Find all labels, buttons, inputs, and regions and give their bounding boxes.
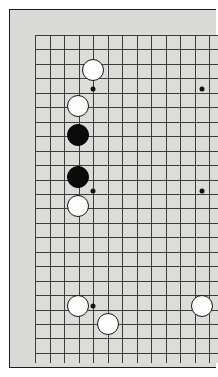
grid-line-vertical [122, 35, 123, 363]
star-point-upper-left [91, 87, 96, 92]
white-stone[interactable] [67, 195, 89, 217]
board-surface[interactable] [35, 35, 218, 363]
grid-line-horizontal [35, 252, 218, 253]
star-point-lower-left [91, 304, 96, 309]
grid-line-horizontal [35, 93, 218, 94]
grid-line-horizontal [35, 208, 218, 209]
grid-line-horizontal [35, 107, 218, 108]
grid-line-horizontal [35, 49, 218, 50]
white-stone[interactable] [191, 295, 213, 317]
grid-line-horizontal [35, 281, 218, 282]
grid-line-vertical [151, 35, 152, 363]
grid-line-vertical [50, 35, 51, 363]
white-stone[interactable] [67, 95, 89, 117]
black-stone[interactable] [67, 166, 89, 188]
star-point-upper-right [200, 87, 205, 92]
grid-line-horizontal [35, 165, 218, 166]
star-point-mid-left [91, 189, 96, 194]
grid-line-horizontal [35, 266, 218, 267]
grid-line-horizontal [35, 151, 218, 152]
grid-line-vertical [137, 35, 138, 363]
grid-line-horizontal [35, 64, 218, 65]
grid-line-horizontal [35, 338, 218, 339]
grid-line-horizontal [35, 35, 218, 36]
grid-line-horizontal [35, 310, 218, 311]
white-stone[interactable] [97, 313, 119, 335]
star-point-mid-right [200, 189, 205, 194]
white-stone[interactable] [82, 59, 104, 81]
grid-line-horizontal [35, 180, 218, 181]
grid-line-horizontal [35, 353, 218, 354]
grid-line-horizontal [35, 237, 218, 238]
grid-line-horizontal [35, 136, 218, 137]
board-frame [9, 9, 216, 368]
grid-line-horizontal [35, 122, 218, 123]
grid-line-vertical [64, 35, 65, 363]
grid-line-vertical [35, 35, 36, 363]
go-board-app [0, 0, 218, 377]
grid-line-horizontal [35, 78, 218, 79]
grid-line-horizontal [35, 295, 218, 296]
grid-line-horizontal [35, 223, 218, 224]
grid-line-vertical [93, 35, 94, 363]
grid-line-horizontal [35, 194, 218, 195]
white-stone[interactable] [67, 295, 89, 317]
grid-line-horizontal [35, 324, 218, 325]
grid-line-vertical [180, 35, 181, 363]
board-gridlines [35, 35, 218, 363]
black-stone[interactable] [67, 124, 89, 146]
grid-line-vertical [166, 35, 167, 363]
